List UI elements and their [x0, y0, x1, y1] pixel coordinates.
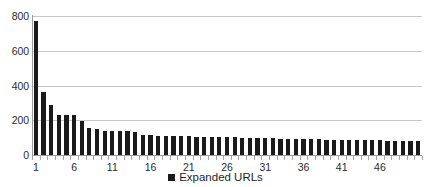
bar — [355, 140, 359, 155]
bar — [408, 141, 412, 155]
x-axis-tick — [93, 156, 94, 160]
bar — [217, 137, 221, 155]
bar — [324, 140, 328, 155]
x-axis-tick — [246, 156, 247, 160]
x-axis-tick — [200, 156, 201, 160]
x-axis-tick — [292, 156, 293, 160]
plot-area — [32, 16, 422, 155]
x-axis-tick — [254, 156, 255, 160]
x-axis-tick — [86, 156, 87, 160]
x-axis-tick — [330, 156, 331, 160]
bar — [95, 129, 99, 155]
x-axis-tick — [139, 156, 140, 160]
x-axis-tick — [414, 156, 415, 160]
x-axis-tick — [32, 156, 33, 160]
bar-chart: 0200400600800 161116212631364146 Expande… — [0, 0, 431, 187]
bar — [309, 139, 313, 155]
x-axis-tick — [131, 156, 132, 160]
bar — [317, 139, 321, 155]
bar — [378, 140, 382, 155]
bar — [416, 141, 420, 155]
x-axis-tick — [193, 156, 194, 160]
x-axis-tick — [208, 156, 209, 160]
x-axis-tick — [185, 156, 186, 160]
bar — [210, 137, 214, 155]
legend-square-marker-icon — [168, 174, 175, 181]
legend-item-label: Expanded URLs — [179, 171, 263, 183]
x-axis-tick — [177, 156, 178, 160]
x-axis-tick — [101, 156, 102, 160]
bar — [110, 131, 114, 155]
bar — [34, 21, 38, 155]
x-axis-tick — [391, 156, 392, 160]
y-axis-line — [32, 15, 33, 156]
bar — [187, 136, 191, 155]
x-axis-tick — [307, 156, 308, 160]
bar-series-expanded-urls — [32, 16, 422, 155]
bar — [164, 136, 168, 155]
bar — [347, 140, 351, 155]
bar — [64, 115, 68, 155]
bar — [41, 92, 45, 155]
x-axis-tick — [162, 156, 163, 160]
x-axis-tick — [407, 156, 408, 160]
x-axis-tick — [277, 156, 278, 160]
bar — [80, 121, 84, 155]
bar — [72, 115, 76, 155]
bar — [179, 136, 183, 155]
bar — [255, 138, 259, 155]
x-axis-tick — [300, 156, 301, 160]
x-axis-tick — [422, 156, 423, 160]
x-axis-tick — [55, 156, 56, 160]
x-axis-tick — [269, 156, 270, 160]
bar — [370, 140, 374, 155]
y-axis-tick-label: 400 — [3, 81, 29, 91]
legend-item-expanded-urls: Expanded URLs — [168, 171, 263, 183]
x-axis-tick — [63, 156, 64, 160]
x-axis-tick — [261, 156, 262, 160]
x-axis-tick — [284, 156, 285, 160]
bar — [240, 138, 244, 155]
bar — [233, 137, 237, 155]
bar — [385, 141, 389, 155]
x-axis-tick — [223, 156, 224, 160]
bar — [141, 135, 145, 155]
x-axis-tick — [147, 156, 148, 160]
bar — [118, 131, 122, 155]
y-axis-tick-label: 0 — [3, 150, 29, 160]
bar — [225, 137, 229, 155]
bar — [87, 128, 91, 155]
bar — [393, 141, 397, 155]
bar — [194, 137, 198, 155]
x-axis-tick — [108, 156, 109, 160]
x-axis-tick — [170, 156, 171, 160]
bar — [202, 137, 206, 155]
bar — [263, 138, 267, 155]
x-axis-tick — [384, 156, 385, 160]
y-axis-tick-label: 600 — [3, 46, 29, 56]
bar — [248, 138, 252, 155]
x-axis-tick — [70, 156, 71, 160]
x-axis-tick — [238, 156, 239, 160]
x-axis-tick — [315, 156, 316, 160]
bar — [278, 139, 282, 156]
x-axis-tick — [368, 156, 369, 160]
bar — [171, 136, 175, 155]
x-axis-tick — [40, 156, 41, 160]
x-axis-tick — [216, 156, 217, 160]
y-axis-tick-label: 800 — [3, 11, 29, 21]
bar — [286, 139, 290, 155]
bar — [332, 140, 336, 155]
x-axis-tick — [78, 156, 79, 160]
bar — [148, 135, 152, 155]
y-axis-tick-label: 200 — [3, 115, 29, 125]
x-axis-tick — [47, 156, 48, 160]
bar — [340, 140, 344, 155]
bar — [133, 132, 137, 155]
x-axis-tick — [346, 156, 347, 160]
bar — [301, 139, 305, 155]
bar — [103, 131, 107, 155]
bar — [156, 136, 160, 155]
x-axis-tick — [361, 156, 362, 160]
x-axis-tick — [376, 156, 377, 160]
